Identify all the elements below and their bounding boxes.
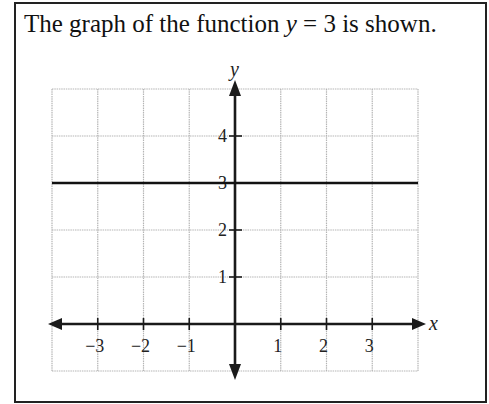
y-axis-down-arrow-icon <box>229 364 241 380</box>
y-axis-label: y <box>228 58 239 81</box>
ticks: −3−2−11231234 <box>85 126 374 356</box>
x-tick-label: 3 <box>365 336 374 356</box>
x-axis-label: x <box>428 312 438 334</box>
y-tick-label: 4 <box>218 126 227 146</box>
x-tick-label: 2 <box>319 336 328 356</box>
y-axis-up-arrow-icon <box>229 80 241 96</box>
x-tick-label: −3 <box>85 336 104 356</box>
x-axis-right-arrow-icon <box>412 318 426 330</box>
x-tick-label: −1 <box>177 336 196 356</box>
coordinate-plane: −3−2−11231234 x y <box>0 0 489 404</box>
x-tick-label: 1 <box>273 336 282 356</box>
y-tick-label: 2 <box>218 220 227 240</box>
x-tick-label: −2 <box>131 336 150 356</box>
x-axis-left-arrow-icon <box>48 318 62 330</box>
y-tick-label: 1 <box>218 267 227 287</box>
